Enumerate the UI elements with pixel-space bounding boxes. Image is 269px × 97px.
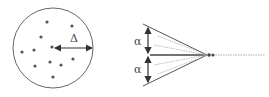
scatter-point: [32, 48, 35, 51]
alpha-top-label: α: [134, 35, 142, 48]
scatter-point: [33, 64, 36, 67]
scatter-point: [20, 50, 23, 53]
alpha-bottom-label: α: [134, 63, 142, 76]
point-cloud-figure: Δ: [13, 8, 93, 88]
delta-label: Δ: [70, 32, 78, 45]
cone-lower-edge: [143, 55, 207, 86]
scatter-point: [48, 60, 51, 63]
scatter-point: [59, 63, 62, 66]
apex-dot-2: [212, 54, 215, 57]
cone-figure: α α: [134, 24, 265, 86]
scatter-point: [39, 35, 42, 38]
apex-dot: [207, 53, 211, 57]
scatter-point: [70, 24, 73, 27]
scatter-point: [50, 45, 53, 48]
scatter-point: [45, 20, 48, 23]
scatter-point: [71, 57, 74, 60]
diagram-canvas: Δ α α: [0, 0, 269, 97]
scatter-point: [51, 75, 54, 78]
scatter-points: [20, 20, 74, 78]
cone-upper-edge: [143, 24, 207, 55]
